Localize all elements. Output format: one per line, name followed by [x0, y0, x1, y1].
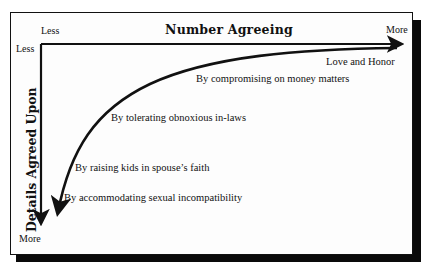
curve-label-money: By compromising on money matters [196, 74, 349, 85]
y-axis-start-label: Less [16, 44, 34, 54]
y-axis-end-label: More [19, 234, 41, 244]
x-axis-end-label: More [386, 25, 408, 35]
x-axis-start-label: Less [41, 26, 59, 36]
curve-label-love-and-honor: Love and Honor [326, 57, 395, 68]
x-axis-title: Number Agreeing [165, 24, 293, 37]
y-axis-title: Details Agreed Upon [26, 87, 39, 232]
diagram-graphics [0, 0, 428, 271]
curve-label-sexual: By accommodating sexual incompatibility [64, 193, 242, 204]
curve-label-in-laws: By tolerating obnoxious in-laws [111, 113, 246, 124]
curve-label-kids-faith: By raising kids in spouse’s faith [75, 163, 209, 174]
